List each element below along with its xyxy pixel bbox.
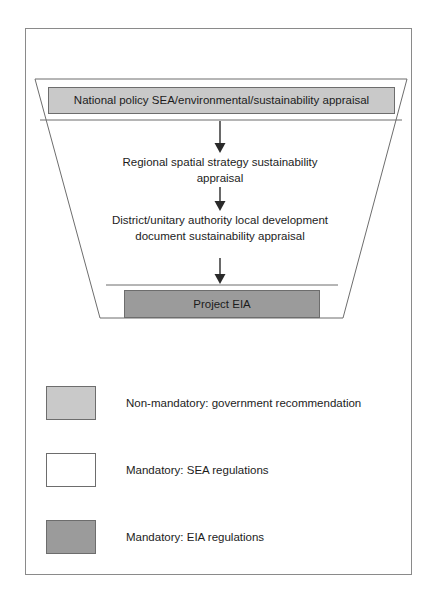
legend-label-non-mandatory: Non-mandatory: government recommendation <box>126 397 361 409</box>
legend-item-non-mandatory: Non-mandatory: government recommendation <box>46 386 386 420</box>
legend-label-mandatory-eia: Mandatory: EIA regulations <box>126 531 264 543</box>
legend-item-mandatory-eia: Mandatory: EIA regulations <box>46 520 386 554</box>
funnel-level-district-unitary-ldd: District/unitary authority local develop… <box>100 213 340 244</box>
funnel-level-regional-spatial-strategy: Regional spatial strategy sustainability… <box>110 155 330 186</box>
figure-root: National policy SEA/environmental/sustai… <box>0 0 437 605</box>
legend-item-mandatory-sea: Mandatory: SEA regulations <box>46 453 386 487</box>
legend-swatch-non-mandatory <box>46 386 96 420</box>
legend-swatch-mandatory-sea <box>46 453 96 487</box>
funnel-level-project-eia: Project EIA <box>124 290 320 318</box>
legend-label-mandatory-sea: Mandatory: SEA regulations <box>126 464 269 476</box>
funnel-level-national-policy: National policy SEA/environmental/sustai… <box>48 87 395 114</box>
legend-swatch-mandatory-eia <box>46 520 96 554</box>
legend: Non-mandatory: government recommendation… <box>46 386 386 554</box>
